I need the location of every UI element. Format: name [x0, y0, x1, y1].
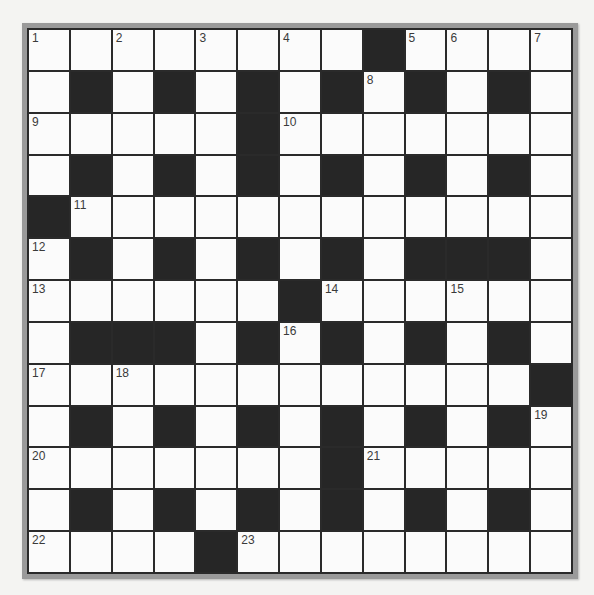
crossword-cell[interactable] [447, 532, 487, 572]
crossword-cell[interactable] [531, 448, 571, 488]
crossword-cell[interactable] [447, 197, 487, 237]
crossword-cell[interactable]: 8 [364, 72, 404, 112]
crossword-cell[interactable]: 14 [322, 281, 362, 321]
crossword-cell[interactable] [113, 490, 153, 530]
crossword-cell[interactable]: 3 [196, 30, 236, 70]
crossword-cell[interactable] [280, 156, 320, 196]
crossword-cell[interactable] [364, 407, 404, 447]
crossword-cell[interactable] [196, 156, 236, 196]
crossword-cell[interactable] [196, 239, 236, 279]
crossword-cell[interactable] [280, 490, 320, 530]
crossword-cell[interactable]: 21 [364, 448, 404, 488]
crossword-cell[interactable] [196, 281, 236, 321]
crossword-cell[interactable] [155, 532, 195, 572]
crossword-cell[interactable] [155, 30, 195, 70]
crossword-cell[interactable] [196, 323, 236, 363]
crossword-cell[interactable] [196, 72, 236, 112]
crossword-cell[interactable] [364, 365, 404, 405]
crossword-cell[interactable] [531, 197, 571, 237]
crossword-cell[interactable] [196, 365, 236, 405]
crossword-cell[interactable] [280, 407, 320, 447]
crossword-cell[interactable]: 19 [531, 407, 571, 447]
crossword-cell[interactable] [406, 365, 446, 405]
crossword-cell[interactable] [447, 156, 487, 196]
crossword-cell[interactable] [113, 239, 153, 279]
crossword-cell[interactable] [447, 448, 487, 488]
crossword-cell[interactable] [322, 197, 362, 237]
crossword-cell[interactable] [155, 114, 195, 154]
crossword-cell[interactable] [531, 490, 571, 530]
crossword-cell[interactable]: 20 [29, 448, 69, 488]
crossword-cell[interactable] [71, 281, 111, 321]
crossword-cell[interactable]: 10 [280, 114, 320, 154]
crossword-cell[interactable]: 15 [447, 281, 487, 321]
crossword-cell[interactable]: 5 [406, 30, 446, 70]
crossword-cell[interactable] [364, 490, 404, 530]
crossword-cell[interactable] [322, 114, 362, 154]
crossword-cell[interactable] [196, 490, 236, 530]
crossword-cell[interactable] [489, 448, 529, 488]
crossword-cell[interactable]: 22 [29, 532, 69, 572]
crossword-cell[interactable] [238, 197, 278, 237]
crossword-cell[interactable] [113, 532, 153, 572]
crossword-cell[interactable] [113, 72, 153, 112]
crossword-cell[interactable]: 2 [113, 30, 153, 70]
crossword-cell[interactable] [489, 365, 529, 405]
crossword-cell[interactable]: 7 [531, 30, 571, 70]
crossword-cell[interactable] [406, 281, 446, 321]
crossword-cell[interactable] [113, 407, 153, 447]
crossword-cell[interactable] [447, 114, 487, 154]
crossword-cell[interactable] [280, 72, 320, 112]
crossword-cell[interactable]: 13 [29, 281, 69, 321]
crossword-cell[interactable] [406, 197, 446, 237]
crossword-cell[interactable] [113, 156, 153, 196]
crossword-cell[interactable]: 11 [71, 197, 111, 237]
crossword-cell[interactable] [113, 281, 153, 321]
crossword-cell[interactable] [447, 365, 487, 405]
crossword-cell[interactable] [280, 448, 320, 488]
crossword-cell[interactable] [531, 281, 571, 321]
crossword-cell[interactable] [280, 239, 320, 279]
crossword-cell[interactable] [531, 239, 571, 279]
crossword-cell[interactable] [113, 197, 153, 237]
crossword-cell[interactable] [238, 448, 278, 488]
crossword-cell[interactable] [113, 114, 153, 154]
crossword-cell[interactable] [322, 30, 362, 70]
crossword-cell[interactable] [155, 448, 195, 488]
crossword-cell[interactable] [196, 197, 236, 237]
crossword-cell[interactable] [29, 323, 69, 363]
crossword-cell[interactable] [531, 72, 571, 112]
crossword-cell[interactable] [71, 532, 111, 572]
crossword-cell[interactable] [29, 407, 69, 447]
crossword-cell[interactable] [406, 532, 446, 572]
crossword-cell[interactable] [364, 281, 404, 321]
crossword-cell[interactable] [447, 490, 487, 530]
crossword-cell[interactable] [238, 281, 278, 321]
crossword-cell[interactable]: 23 [238, 532, 278, 572]
crossword-cell[interactable] [155, 281, 195, 321]
crossword-cell[interactable]: 4 [280, 30, 320, 70]
crossword-cell[interactable] [447, 407, 487, 447]
crossword-cell[interactable] [29, 156, 69, 196]
crossword-cell[interactable]: 9 [29, 114, 69, 154]
crossword-cell[interactable] [531, 156, 571, 196]
crossword-cell[interactable] [406, 114, 446, 154]
crossword-cell[interactable] [364, 197, 404, 237]
crossword-cell[interactable] [447, 323, 487, 363]
crossword-cell[interactable] [364, 239, 404, 279]
crossword-cell[interactable] [322, 532, 362, 572]
crossword-cell[interactable] [71, 114, 111, 154]
crossword-cell[interactable] [196, 448, 236, 488]
crossword-cell[interactable]: 17 [29, 365, 69, 405]
crossword-cell[interactable] [155, 365, 195, 405]
crossword-cell[interactable] [406, 448, 446, 488]
crossword-cell[interactable] [322, 365, 362, 405]
crossword-cell[interactable] [196, 407, 236, 447]
crossword-cell[interactable] [364, 532, 404, 572]
crossword-cell[interactable]: 6 [447, 30, 487, 70]
crossword-cell[interactable] [71, 30, 111, 70]
crossword-cell[interactable] [447, 72, 487, 112]
crossword-cell[interactable] [71, 448, 111, 488]
crossword-cell[interactable] [531, 323, 571, 363]
crossword-cell[interactable]: 18 [113, 365, 153, 405]
